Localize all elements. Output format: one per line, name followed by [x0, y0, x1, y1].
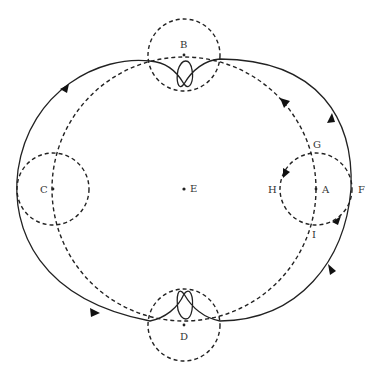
label-g: G — [313, 139, 321, 150]
arrow-upper-left-icon — [60, 84, 69, 93]
label-f: F — [358, 184, 365, 195]
point-e-dot — [182, 187, 185, 190]
label-b: B — [180, 39, 187, 50]
orbit-diagram: B C D A E F G H I — [0, 0, 374, 377]
label-d: D — [180, 331, 188, 342]
point-b-dot — [183, 54, 186, 57]
label-e: E — [190, 183, 197, 194]
arrow-dashed-upper-right-icon — [280, 98, 290, 108]
point-d-dot — [183, 324, 186, 327]
arrow-lower-right-icon — [328, 264, 336, 275]
label-c: C — [40, 184, 48, 195]
arrow-upper-right-icon — [327, 113, 335, 123]
label-h: H — [268, 184, 277, 195]
label-i: I — [312, 229, 316, 240]
arrow-lower-left-icon — [90, 308, 100, 317]
label-a: A — [321, 184, 330, 195]
point-c-dot — [52, 188, 55, 191]
point-a-dot — [315, 188, 318, 191]
